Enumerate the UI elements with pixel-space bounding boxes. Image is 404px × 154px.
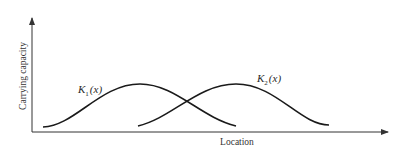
x-axis-label: Location [220,137,254,147]
curve-k1-label: K1(x) [77,83,102,98]
y-axis-label: Carrying capacity [18,42,28,110]
curve-k2-label: K2(x) [256,72,281,87]
carrying-capacity-diagram: K1(x) K2(x) Location Carrying capacity [0,0,404,154]
